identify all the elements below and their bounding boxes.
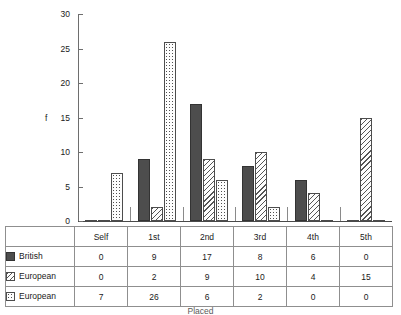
bar-3rd-solid [242, 166, 254, 221]
x-axis-title: Placed [0, 306, 401, 315]
solid-swatch-icon [6, 252, 15, 261]
table-header-5th: 5th [340, 227, 393, 247]
bar-4th-dots [321, 220, 333, 221]
table-row: British0917860 [6, 247, 393, 267]
bar-5th-dots [373, 220, 385, 221]
table-cell: 10 [234, 267, 287, 287]
table-cell: 6 [287, 247, 340, 267]
y-tick-label: 30 [48, 10, 70, 19]
table-header-3rd: 3rd [234, 227, 287, 247]
bar-self-solid [85, 220, 97, 221]
group-separator [235, 207, 236, 221]
y-tick-label: 25 [48, 45, 70, 54]
table-cell: 4 [287, 267, 340, 287]
table-cell: 2 [234, 287, 287, 307]
y-tick-label: 20 [48, 79, 70, 88]
legend-cell: European [6, 287, 75, 307]
group-separator [287, 207, 288, 221]
bar-1st-solid [138, 159, 150, 221]
table-cell: 0 [75, 247, 128, 267]
table-row: European7266200 [6, 287, 393, 307]
y-tick-mark [79, 83, 83, 84]
y-tick-label: 0 [48, 217, 70, 226]
table-header-self: Self [75, 227, 128, 247]
bar-2nd-dots [216, 180, 228, 221]
legend-label: European [19, 272, 56, 281]
table-cell: 0 [287, 287, 340, 307]
plot-area: f 051015202530 [0, 0, 401, 226]
x-axis-line [78, 221, 392, 222]
legend-cell: European [6, 267, 75, 287]
hatch-swatch-icon [6, 272, 15, 281]
bar-5th-hatch [360, 118, 372, 222]
y-tick-label: 15 [48, 114, 70, 123]
y-tick-mark [79, 187, 83, 188]
bar-2nd-solid [190, 104, 202, 221]
chart-figure: f 051015202530 Self1st2nd3rd4th5thBritis… [0, 0, 401, 315]
table-cell: 9 [181, 267, 234, 287]
y-tick-label: 5 [48, 183, 70, 192]
table-cell: 6 [181, 287, 234, 307]
data-table: Self1st2nd3rd4th5thBritish0917860Europea… [5, 226, 393, 307]
data-table-wrapper: Self1st2nd3rd4th5thBritish0917860Europea… [5, 226, 393, 307]
table-cell: 8 [234, 247, 287, 267]
legend-cell: British [6, 247, 75, 267]
y-tick-mark [79, 152, 83, 153]
dots-swatch-icon [6, 292, 15, 301]
y-tick-mark [79, 49, 83, 50]
table-corner-cell [6, 227, 75, 247]
bar-3rd-hatch [255, 152, 267, 221]
y-tick-mark [79, 14, 83, 15]
bar-1st-dots [164, 42, 176, 221]
table-cell: 0 [340, 287, 393, 307]
y-tick-label: 10 [48, 148, 70, 157]
bar-5th-solid [347, 220, 359, 221]
group-separator [130, 207, 131, 221]
table-cell: 0 [75, 267, 128, 287]
table-cell: 9 [128, 247, 181, 267]
table-cell: 7 [75, 287, 128, 307]
y-tick-mark [79, 118, 83, 119]
bar-self-dots [111, 173, 123, 221]
y-tick-mark [79, 221, 83, 222]
table-header-1st: 1st [128, 227, 181, 247]
table-cell: 26 [128, 287, 181, 307]
table-row: European02910415 [6, 267, 393, 287]
table-header-4th: 4th [287, 227, 340, 247]
bar-4th-solid [295, 180, 307, 221]
table-cell: 0 [340, 247, 393, 267]
group-separator [183, 207, 184, 221]
bar-3rd-dots [268, 207, 280, 221]
group-separator [340, 207, 341, 221]
bar-1st-hatch [151, 207, 163, 221]
bar-self-hatch [98, 220, 110, 221]
table-header-row: Self1st2nd3rd4th5th [6, 227, 393, 247]
table-header-2nd: 2nd [181, 227, 234, 247]
legend-label: European [19, 292, 56, 301]
bar-2nd-hatch [203, 159, 215, 221]
legend-label: British [19, 252, 43, 261]
bar-4th-hatch [308, 193, 320, 221]
table-cell: 2 [128, 267, 181, 287]
table-cell: 17 [181, 247, 234, 267]
table-cell: 15 [340, 267, 393, 287]
